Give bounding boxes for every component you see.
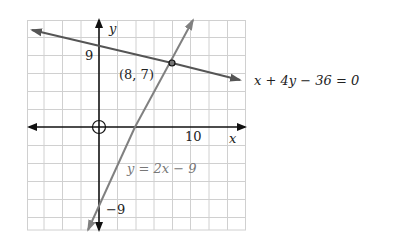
intersection-label: (8, 7): [119, 67, 154, 82]
line1-equation-label: x + 4y − 36 = 0: [254, 73, 359, 88]
line-x-plus-4y-minus-36: [32, 30, 172, 63]
coordinate-plane-chart: y x 9 10 −9 (8, 7) x + 4y − 36 = 0 y = 2…: [0, 0, 397, 244]
tick-label-9: 9: [85, 48, 93, 63]
x-axis-label: x: [229, 131, 237, 146]
intersection-point: [169, 60, 175, 66]
tick-label-10: 10: [185, 129, 202, 144]
line2-equation-label: y = 2x − 9: [126, 161, 197, 176]
tick-label-neg9: −9: [106, 202, 125, 217]
y-axis-label: y: [108, 21, 117, 36]
line-x-plus-4y-minus-36: [172, 63, 240, 80]
